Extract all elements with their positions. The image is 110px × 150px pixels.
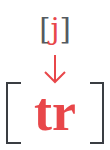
target-segment: tr bbox=[22, 84, 88, 140]
target-close-bracket bbox=[90, 82, 104, 144]
source-segment: j bbox=[51, 12, 60, 46]
source-close-bracket: ] bbox=[60, 12, 71, 46]
source-open-bracket: [ bbox=[39, 12, 50, 46]
down-arrow-icon bbox=[43, 54, 67, 84]
target-open-bracket bbox=[6, 82, 21, 144]
source-phoneme: [j] bbox=[38, 10, 72, 50]
